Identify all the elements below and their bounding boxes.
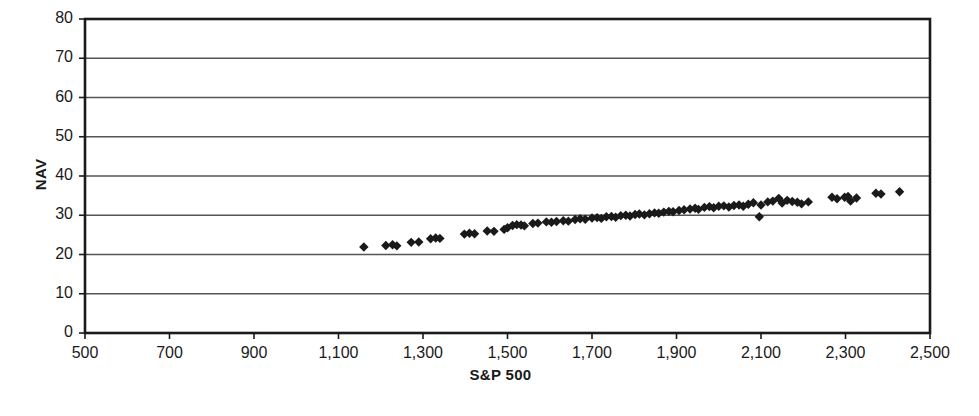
- data-point-marker: [359, 242, 368, 251]
- plot-surface: [0, 0, 979, 416]
- data-series: [359, 187, 904, 252]
- scatter-chart: NAV S&P 500 01020304050607080 5007009001…: [0, 0, 979, 416]
- data-point-marker: [804, 197, 813, 206]
- data-point-marker: [406, 238, 415, 247]
- data-point-marker: [895, 187, 904, 196]
- data-point-marker: [414, 237, 423, 246]
- data-point-marker: [489, 227, 498, 236]
- data-point-marker: [755, 212, 764, 221]
